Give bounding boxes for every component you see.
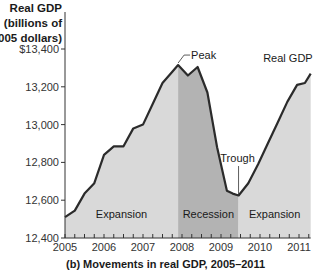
cycle-region-labels: ExpansionRecessionExpansion [96, 208, 300, 220]
y-tick-label: 13,200 [25, 81, 59, 93]
x-tick-label: 2009 [209, 241, 233, 253]
peak-label: Peak [191, 49, 217, 61]
real-gdp-series-label: Real GDP [263, 52, 313, 64]
peak-leader-line [178, 55, 190, 63]
region-label-recession: Recession [183, 208, 234, 220]
y-axis-title-line-1: Real GDP [10, 2, 63, 14]
x-tick-label: 2007 [131, 241, 155, 253]
y-axis-title: Real GDP (billions of 2005 dollars) [0, 2, 62, 44]
x-tick-label: 2005 [53, 241, 77, 253]
region-label-expansion: Expansion [96, 208, 147, 220]
y-tick-label: 13,000 [25, 119, 59, 131]
y-tick-label: 12,600 [25, 194, 59, 206]
y-axis-title-line-2: (billions of [4, 17, 62, 29]
x-tick-label: 2006 [92, 241, 116, 253]
y-tick-label: $13,400 [19, 43, 59, 55]
chart-caption: (b) Movements in real GDP, 2005–2011 [66, 258, 265, 270]
x-tick-label: 2011 [287, 241, 311, 253]
trough-label: Trough [220, 152, 254, 164]
x-tick-label: 2010 [248, 241, 272, 253]
x-tick-label: 2008 [170, 241, 194, 253]
region-label-expansion: Expansion [249, 208, 300, 220]
y-tick-label: 12,800 [25, 156, 59, 168]
real-gdp-chart: Real GDP (billions of 2005 dollars) Expa… [0, 0, 329, 272]
